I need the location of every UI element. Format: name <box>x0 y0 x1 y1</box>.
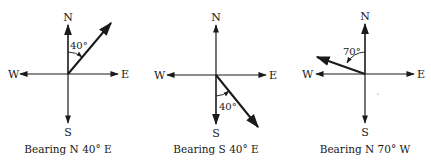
panel-bearing-s40e: 40° N S E W Bearing S 40° E <box>154 11 277 155</box>
east-label: E <box>269 69 277 82</box>
south-label: S <box>212 127 220 140</box>
stray-dot <box>377 93 378 94</box>
east-label: E <box>121 68 129 81</box>
south-label: S <box>64 126 72 139</box>
south-label: S <box>361 126 369 139</box>
caption: Bearing N 70° W <box>320 143 411 155</box>
angle-label: 40° <box>219 101 237 112</box>
caption: Bearing N 40° E <box>24 143 112 155</box>
angle-label: 70° <box>343 46 361 57</box>
bearing-arrow <box>317 57 365 74</box>
east-label: E <box>417 68 425 81</box>
caption: Bearing S 40° E <box>173 143 259 155</box>
west-label: W <box>8 68 20 81</box>
angle-label: 40° <box>70 40 88 51</box>
angle-arc <box>216 91 229 96</box>
north-label: N <box>360 10 370 23</box>
north-label: N <box>211 11 221 24</box>
angle-arc <box>68 52 82 57</box>
panel-bearing-n70w: 70° N S E W Bearing N 70° W <box>302 10 425 155</box>
west-label: W <box>302 68 314 81</box>
bearings-diagram: 40° N S E W Bearing N 40° E 40° N S E W … <box>0 0 431 163</box>
north-label: N <box>63 11 73 24</box>
panel-bearing-n40e: 40° N S E W Bearing N 40° E <box>8 11 129 155</box>
west-label: W <box>154 69 166 82</box>
